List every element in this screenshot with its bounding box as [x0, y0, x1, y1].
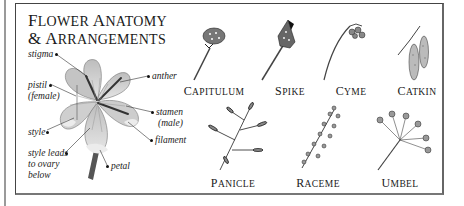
- label-style: style: [28, 127, 45, 138]
- label-dot: [147, 75, 150, 78]
- label-dot: [65, 152, 68, 155]
- label-pistil: pistil: [28, 80, 47, 91]
- umbel-illustration: [377, 111, 431, 170]
- panicle-illustration: [208, 102, 267, 170]
- label-dot: [151, 111, 154, 114]
- label-female: (female): [28, 91, 60, 102]
- caption-cyme: CYME: [336, 84, 367, 99]
- cyme-illustration: [324, 24, 365, 80]
- caption-spike: SPIKE: [275, 84, 305, 99]
- catkin-illustration: [398, 26, 429, 80]
- label-dot: [106, 165, 109, 168]
- label-dot: [55, 53, 58, 56]
- label-stamen: stamen: [156, 107, 183, 118]
- label-petal: petal: [111, 161, 130, 172]
- label-style-leads-line2: to ovary: [28, 159, 59, 170]
- capitulum-illustration: [194, 28, 225, 80]
- caption-capitulum: CAPITULUM: [184, 84, 245, 99]
- label-style-leads-line3: below: [28, 170, 51, 181]
- label-style-leads-line1: style leads: [28, 148, 68, 159]
- raceme-illustration: [302, 106, 340, 168]
- caption-raceme: RACEME: [296, 176, 340, 191]
- label-male: (male): [158, 118, 183, 129]
- label-dot: [150, 139, 153, 142]
- caption-catkin: CATKIN: [398, 84, 437, 99]
- caption-umbel: UMBEL: [381, 176, 418, 191]
- label-filament: filament: [155, 135, 186, 146]
- caption-panicle: PANICLE: [211, 176, 255, 191]
- label-dot: [46, 131, 49, 134]
- label-dot: [49, 84, 52, 87]
- label-stigma: stigma: [28, 49, 53, 60]
- label-anther: anther: [152, 71, 177, 82]
- spike-illustration: [262, 20, 295, 80]
